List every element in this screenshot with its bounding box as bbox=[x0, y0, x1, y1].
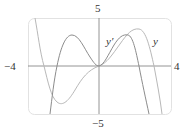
chart: −4 4 5 −5 y′ y bbox=[0, 0, 189, 134]
x-min-label: −4 bbox=[4, 60, 16, 72]
curve-y-label: y bbox=[152, 35, 158, 47]
plot-frame bbox=[29, 19, 172, 115]
curve-y-prime-label: y′ bbox=[105, 35, 114, 47]
x-max-label: 4 bbox=[174, 60, 180, 72]
y-min-label: −5 bbox=[92, 117, 104, 129]
y-max-label: 5 bbox=[95, 2, 101, 14]
